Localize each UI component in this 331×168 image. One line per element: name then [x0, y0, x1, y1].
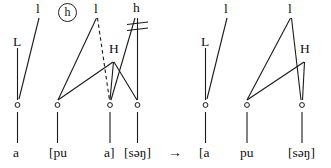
tone-label-l1-left: l: [36, 2, 40, 15]
tone-label-L-left: L: [13, 35, 21, 48]
skeleton-slot-x2-out: [245, 103, 250, 108]
assoc-line-l1-to-x1: [19, 18, 39, 99]
tone-label-L-right: L: [201, 35, 209, 48]
delinked-line-l2-to-x3: [98, 18, 110, 100]
delink-bar-upper: [127, 22, 148, 25]
right-panel-lines: [203, 18, 304, 143]
tone-label-l2-right: l: [288, 2, 292, 15]
segment-label-a-left: a: [13, 146, 19, 159]
left-panel-lines: [15, 18, 148, 143]
assoc-line-l2-to-x3-out: [292, 18, 302, 100]
tone-label-H-left: H: [109, 42, 119, 55]
assoc-line-H-to-x2: [58, 62, 113, 100]
segment-label-sen-right: [səŋ]: [288, 146, 315, 159]
assoc-line-l2-to-x2: [58, 18, 97, 100]
tone-association-figure: h L l l H h a [pu a] [səŋ] → L l l H [a …: [0, 0, 331, 168]
association-lines-layer: [0, 0, 331, 168]
tone-label-h-left: h: [133, 1, 140, 14]
assoc-line-H-to-x4: [114, 62, 137, 100]
segment-label-sen-left: [səŋ]: [124, 146, 151, 159]
delink-bar-lower: [127, 28, 148, 31]
assoc-line-l1-to-x1-out: [207, 18, 227, 99]
assoc-line-H-to-x3-out: [303, 62, 305, 100]
segment-label-pu-right: pu: [240, 146, 254, 159]
segment-label-pu-left: [pu: [49, 146, 67, 159]
derivation-arrow: →: [168, 145, 182, 161]
assoc-line-l2-to-x2-out: [247, 18, 291, 100]
skeleton-slot-x1-out: [203, 103, 208, 108]
skeleton-slot-x3: [108, 103, 113, 108]
skeleton-slot-x3-out: [300, 103, 305, 108]
segment-label-a-close-left: a]: [104, 146, 115, 159]
skeleton-slot-x1: [15, 103, 20, 108]
assoc-line-H-to-x2-out: [247, 62, 304, 100]
segment-label-a-right: [a: [199, 146, 210, 159]
skeleton-slot-x4: [135, 103, 140, 108]
tone-label-l2-left: l: [94, 2, 98, 15]
assoc-line-H-to-x3: [110, 62, 114, 100]
circled-h-annotation: h: [58, 3, 77, 22]
tone-label-H-right: H: [300, 42, 310, 55]
tone-label-l1-right: l: [224, 2, 228, 15]
skeleton-slot-x2: [55, 103, 60, 108]
assoc-line-h-to-x3: [111, 18, 135, 100]
